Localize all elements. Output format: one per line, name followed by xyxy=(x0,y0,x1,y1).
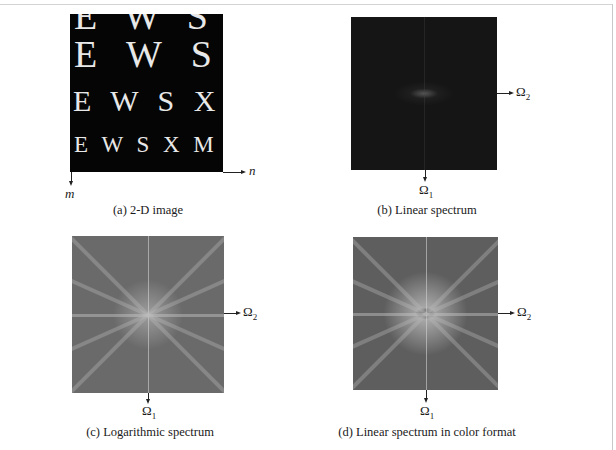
spectrum-streak xyxy=(72,313,149,393)
omega1-label: Ω1 xyxy=(142,403,156,421)
arrow-right-icon xyxy=(510,311,515,315)
omega2-label: Ω2 xyxy=(517,304,531,322)
n-axis-line xyxy=(223,172,242,173)
n-axis-label: n xyxy=(249,163,256,179)
letter-row-3: E W S X M xyxy=(73,84,223,118)
letters-image: E W S Y E W S X E W S X M E W S X M P xyxy=(70,14,223,172)
caption-c: (c) Logarithmic spectrum xyxy=(86,425,214,440)
m-axis-label: m xyxy=(65,186,74,202)
letter-row-4: E W S X M P xyxy=(74,132,223,158)
log-spectrum-image xyxy=(72,236,224,393)
spectrum-streak xyxy=(353,238,427,315)
arrow-right-icon xyxy=(236,311,241,315)
omega2-label: Ω2 xyxy=(243,304,257,322)
spectrum-streak xyxy=(72,236,149,316)
spectrum-streak xyxy=(353,312,427,389)
spectrum-streak xyxy=(424,238,498,315)
color-spectrum-image xyxy=(353,237,498,390)
page-border-right xyxy=(612,4,613,450)
spectrum-streak xyxy=(147,236,224,316)
page-border-top xyxy=(0,4,613,5)
letter-row-2: E W S X xyxy=(74,32,223,76)
caption-b: (b) Linear spectrum xyxy=(377,203,476,218)
caption-d: (d) Linear spectrum in color format xyxy=(338,425,515,440)
caption-a: (a) 2-D image xyxy=(113,203,183,218)
arrow-right-icon xyxy=(509,91,514,95)
spectrum-center-line xyxy=(424,17,425,170)
spectrum-streak xyxy=(424,312,498,389)
linear-spectrum-image xyxy=(351,17,497,170)
arrow-right-icon xyxy=(241,170,246,174)
omega2-label: Ω2 xyxy=(516,84,530,102)
omega1-label: Ω1 xyxy=(419,182,433,200)
omega1-label: Ω1 xyxy=(420,403,434,421)
spectrum-streak xyxy=(147,313,224,393)
